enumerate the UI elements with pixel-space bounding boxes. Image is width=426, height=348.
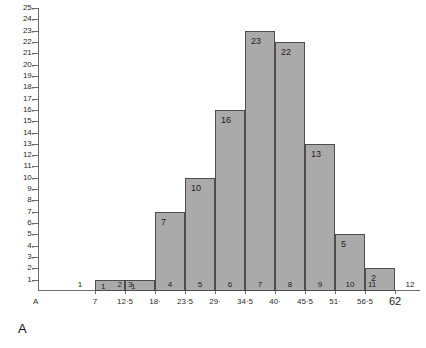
y-axis-tick-label-text: 14. bbox=[14, 129, 34, 137]
y-axis-tick-label-text: 22. bbox=[14, 38, 34, 46]
y-axis-tick-label-text: 10. bbox=[14, 174, 34, 182]
y-axis-tick-label-text: 3. bbox=[14, 253, 34, 261]
bar-value-label: 23 bbox=[251, 37, 261, 46]
x-axis-tick bbox=[125, 291, 126, 294]
y-axis-tick-label-text: 7. bbox=[14, 208, 34, 216]
x-axis-tick bbox=[335, 291, 336, 294]
y-axis-tick-label-text: 4. bbox=[14, 242, 34, 250]
y-axis-tick-label: 14. bbox=[8, 129, 34, 137]
bar-value-label: 13 bbox=[311, 150, 321, 159]
bin-number-label: 2 bbox=[95, 281, 125, 289]
bin-number-label: 11 bbox=[365, 281, 395, 289]
y-axis-tick-label: 23. bbox=[8, 27, 34, 35]
bin-number-label: 10 bbox=[335, 281, 365, 289]
y-axis-tick-label-text: 20. bbox=[14, 61, 34, 69]
bin-number-label: 3 bbox=[125, 281, 155, 289]
x-axis-tick bbox=[215, 291, 216, 294]
y-axis-tick-label-text: 25. bbox=[14, 4, 34, 12]
figure-caption: A bbox=[18, 322, 27, 336]
x-axis-tick-label: 12·5 bbox=[109, 297, 141, 307]
histogram-figure: 25.24.23.22.21.20.19.18.17.16.15.14.13.1… bbox=[0, 0, 426, 348]
x-axis-tick-label: 40· bbox=[259, 297, 291, 307]
y-axis-tick-label-text: 23. bbox=[14, 27, 34, 35]
y-axis-tick-label-text: 5. bbox=[14, 230, 34, 238]
y-axis-tick-label: 4. bbox=[8, 242, 34, 250]
y-axis-tick-label: 5. bbox=[8, 230, 34, 238]
y-axis-tick-label-text: 6. bbox=[14, 219, 34, 227]
y-axis-tick-label: 11. bbox=[8, 162, 34, 170]
x-axis-tick bbox=[275, 291, 276, 294]
bin-number-label: 5 bbox=[185, 281, 215, 289]
y-axis-tick-label-text: 12. bbox=[14, 151, 34, 159]
y-axis-tick-label: 19. bbox=[8, 72, 34, 80]
y-axis-tick-label: 12. bbox=[8, 151, 34, 159]
y-axis-tick-label: 22. bbox=[8, 38, 34, 46]
bin-number-label: 6 bbox=[215, 281, 245, 289]
y-axis-tick-label-text: 11. bbox=[14, 162, 34, 170]
x-axis-tick-label: 29· bbox=[199, 297, 231, 307]
y-axis-tick-label: 10. bbox=[8, 174, 34, 182]
y-axis-tick-label: 16. bbox=[8, 106, 34, 114]
bin-number-label: 8 bbox=[275, 281, 305, 289]
y-axis-tick-label: 17. bbox=[8, 95, 34, 103]
y-axis-tick-label-text: 17. bbox=[14, 95, 34, 103]
bar-value-label: 10 bbox=[191, 184, 201, 193]
y-axis-tick-label-text: 16. bbox=[14, 106, 34, 114]
y-axis-tick-label: 13. bbox=[8, 140, 34, 148]
y-axis-tick-label: 8. bbox=[8, 196, 34, 204]
x-axis-tick bbox=[395, 291, 396, 294]
x-axis-tick bbox=[155, 291, 156, 294]
axis-origin-label: A bbox=[33, 297, 38, 306]
y-axis-tick-label: 15. bbox=[8, 117, 34, 125]
x-axis-tick bbox=[305, 291, 306, 294]
bar-value-label: 16 bbox=[221, 116, 231, 125]
bin-number-label: 12 bbox=[395, 281, 425, 289]
y-axis-tick-label: 24. bbox=[8, 15, 34, 23]
x-axis-tick bbox=[365, 291, 366, 294]
y-axis-tick-label: 7. bbox=[8, 208, 34, 216]
x-axis-tick-label: 18· bbox=[139, 297, 171, 307]
bar-value-label: 22 bbox=[281, 48, 291, 57]
y-axis-tick-label-text: 9. bbox=[14, 185, 34, 193]
bin-number-label: 4 bbox=[155, 281, 185, 289]
x-axis-tick-label: 34·5 bbox=[229, 297, 261, 307]
x-axis-tick bbox=[95, 291, 96, 294]
bin-number-label: 1 bbox=[65, 281, 95, 289]
histogram-bar bbox=[215, 110, 245, 291]
histogram-bar bbox=[245, 31, 275, 291]
y-axis-tick-label-text: 24. bbox=[14, 15, 34, 23]
y-axis-tick-label-text: 18. bbox=[14, 83, 34, 91]
x-axis-tick-label: 23·5 bbox=[169, 297, 201, 307]
y-axis-tick-label: 25. bbox=[8, 4, 34, 12]
histogram-bar bbox=[185, 178, 215, 291]
x-axis-tick-label: 51· bbox=[319, 297, 351, 307]
y-axis-tick-label: 20. bbox=[8, 61, 34, 69]
x-axis-tick-label: 56·5 bbox=[349, 297, 381, 307]
y-axis-tick-label-text: 13. bbox=[14, 140, 34, 148]
y-axis-tick-label: 1. bbox=[8, 276, 34, 284]
y-axis-tick-label-text: 1. bbox=[14, 276, 34, 284]
x-axis-tick-label: 7 bbox=[79, 297, 111, 307]
bar-value-label: 7 bbox=[161, 218, 166, 227]
histogram-bar bbox=[275, 42, 305, 291]
y-axis-tick-label-text: 15. bbox=[14, 117, 34, 125]
y-axis-tick-label: 3. bbox=[8, 253, 34, 261]
x-axis-tick-label: 62 bbox=[379, 296, 411, 307]
bars-container: 117101623221352 bbox=[38, 8, 418, 291]
y-axis-tick-label-text: 8. bbox=[14, 196, 34, 204]
x-axis-tick bbox=[245, 291, 246, 294]
histogram-bar bbox=[305, 144, 335, 291]
y-axis-tick-label: 18. bbox=[8, 83, 34, 91]
bin-number-label: 7 bbox=[245, 281, 275, 289]
y-axis-tick-label: 9. bbox=[8, 185, 34, 193]
y-axis-tick-label-text: 2. bbox=[14, 264, 34, 272]
y-axis-tick-label-text: 19. bbox=[14, 72, 34, 80]
bin-number-label: 9 bbox=[305, 281, 335, 289]
x-axis-tick-label: 45·5 bbox=[289, 297, 321, 307]
y-axis-tick-label: 6. bbox=[8, 219, 34, 227]
x-axis-tick bbox=[185, 291, 186, 294]
y-axis-tick-label: 2. bbox=[8, 264, 34, 272]
y-axis-tick-label: 21. bbox=[8, 49, 34, 57]
y-axis-tick-label-text: 21. bbox=[14, 49, 34, 57]
bar-value-label: 5 bbox=[341, 240, 346, 249]
